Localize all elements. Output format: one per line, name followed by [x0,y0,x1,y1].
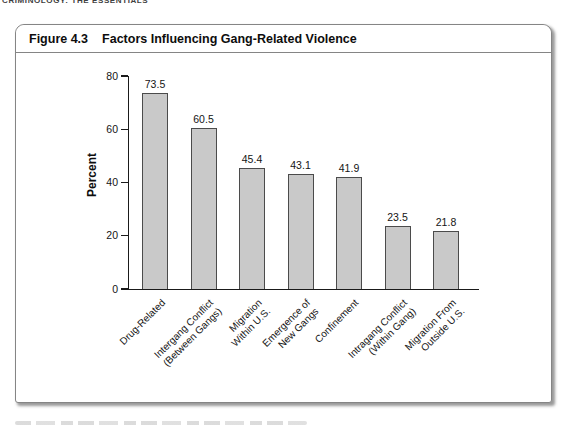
y-tick-mark [121,129,128,130]
x-axis-label: Confinement [313,297,361,345]
y-tick-mark [121,235,128,236]
x-axis-label: Emergence of New Gangs [260,297,321,358]
y-tick-label: 20 [106,230,118,241]
bar-value-label: 43.1 [290,159,310,171]
figure-title-bar: Figure 4.3 Factors Influencing Gang-Rela… [16,25,551,53]
figure-box: Figure 4.3 Factors Influencing Gang-Rela… [15,24,552,403]
bar [385,226,411,289]
cropped-source-line [15,421,307,425]
bar-value-label: 60.5 [193,113,213,125]
figure-title: Factors Influencing Gang-Related Violenc… [102,32,357,46]
figure-number-label: Figure 4.3 [29,32,88,46]
y-axis-label: Percent [85,152,99,196]
bar [336,177,362,289]
x-axis-label: Migration From Outside U.S. [402,297,466,361]
y-tick-label: 0 [112,284,118,295]
x-axis-label: Drug-Related [117,297,167,347]
y-tick-label: 40 [106,177,118,188]
y-tick-label: 80 [106,71,118,82]
y-tick-mark [121,288,128,289]
bar-value-label: 23.5 [387,211,407,223]
y-tick-label: 60 [106,124,118,135]
bar [433,231,459,289]
bar-value-label: 45.4 [242,153,262,165]
bar-value-label: 73.5 [145,78,165,90]
plot-area: 02040608073.560.545.443.141.923.521.8 [128,76,479,290]
bar [142,93,168,289]
running-head: CRIMINOLOGY: THE ESSENTIALS [2,0,148,5]
y-tick-mark [121,182,128,183]
bar [239,168,265,289]
y-tick-mark [121,75,128,76]
chart-area: Percent 02040608073.560.545.443.141.923.… [16,54,551,403]
bar-value-label: 41.9 [339,162,359,174]
bar [191,128,217,289]
bar-value-label: 21.8 [436,216,456,228]
bar [288,174,314,289]
